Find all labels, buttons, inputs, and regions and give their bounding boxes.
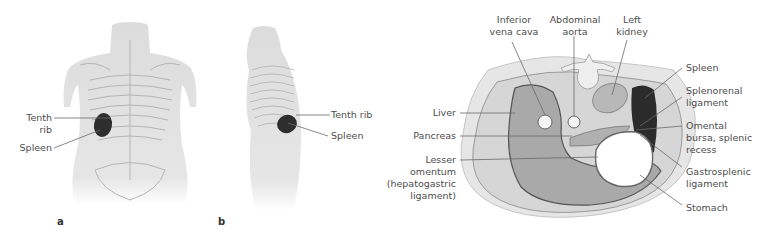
label-line: ligament xyxy=(686,178,751,190)
label-line: omentum xyxy=(380,166,456,178)
label-line: (hepatogastric xyxy=(380,178,456,190)
panel-a-torso xyxy=(64,22,197,205)
label-line: kidney xyxy=(612,26,652,38)
spleen-label: Spleen xyxy=(686,62,718,74)
label-line: Gastrosplenic xyxy=(686,166,751,178)
label-line: bursa, splenic xyxy=(686,132,752,144)
ivc-label: Inferior vena cava xyxy=(486,14,542,38)
label-line: Inferior xyxy=(486,14,542,26)
label-line: Omental xyxy=(686,120,752,132)
label-line: Lesser xyxy=(380,154,456,166)
abdominal-aorta-label: Abdominal aorta xyxy=(545,14,605,38)
panel-a-spleen-label: Spleen xyxy=(10,142,52,154)
label-line: Abdominal xyxy=(545,14,605,26)
panel-b-spleen-label: Spleen xyxy=(331,130,363,142)
label-line: rib xyxy=(14,124,52,136)
panel-b-tenth-rib-label: Tenth rib xyxy=(331,109,372,121)
panel-a-tenth-rib-label: Tenth rib xyxy=(14,112,52,136)
label-line: Splenorenal xyxy=(686,85,742,97)
gastrosplenic-ligament-label: Gastrosplenic ligament xyxy=(686,166,751,190)
label-line: recess xyxy=(686,144,752,156)
label-line: Tenth xyxy=(14,112,52,124)
lesser-omentum-label: Lesser omentum (hepatogastric ligament) xyxy=(380,154,456,202)
panel-a-letter: a xyxy=(57,216,64,227)
pancreas-label: Pancreas xyxy=(400,130,456,142)
stomach-label: Stomach xyxy=(686,202,728,214)
panel-b-torso xyxy=(246,26,301,210)
left-kidney-label: Left kidney xyxy=(612,14,652,38)
splenorenal-ligament-label: Splenorenal ligament xyxy=(686,85,742,109)
label-line: vena cava xyxy=(486,26,542,38)
liver-label: Liver xyxy=(400,107,456,119)
panel-b-letter: b xyxy=(218,216,225,227)
label-line: Left xyxy=(612,14,652,26)
label-line: ligament) xyxy=(380,190,456,202)
label-line: ligament xyxy=(686,97,742,109)
label-line: aorta xyxy=(545,26,605,38)
omental-bursa-label: Omental bursa, splenic recess xyxy=(686,120,752,156)
